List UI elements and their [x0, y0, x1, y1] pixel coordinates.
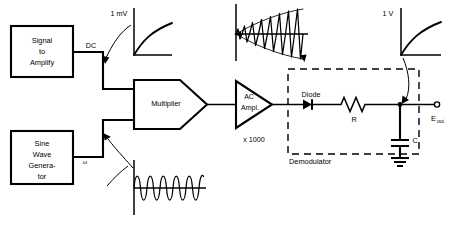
wire-sine-to-multiplier — [73, 120, 134, 157]
sine-waveform-annotation-arrow — [107, 166, 128, 186]
sine-waveform-annotation-arrow-shaft — [108, 139, 133, 168]
sine-waveform-arrowhead — [103, 133, 111, 141]
diode-triangle — [303, 100, 312, 110]
input-amplitude-label: 1 mV — [111, 9, 128, 18]
signal-to-amplify-label-line3: Amplify — [30, 58, 55, 67]
modulated-am-waveform — [234, 4, 308, 62]
resistor-component[interactable]: R — [337, 98, 370, 124]
signal-to-amplify-label-line2: to — [39, 47, 45, 56]
sine-wave-generator-label-line3: Genera- — [28, 161, 56, 170]
sine-wave-generator-label-line4: tor — [38, 172, 47, 181]
sine-wave-generator-label-line1: Sine — [35, 139, 50, 148]
output-waveform-annotation-arrow — [403, 58, 409, 99]
output-terminal-label: E — [431, 114, 436, 123]
dc-signal-label: DC — [86, 41, 96, 50]
output-waveform-arrowhead — [402, 95, 410, 104]
resistor-label: R — [351, 115, 356, 124]
capacitor-component[interactable]: C — [391, 105, 418, 167]
input-waveform-annotation-arrow — [106, 25, 131, 58]
diode-label: Diode — [302, 90, 321, 99]
sine-wave-generator-block[interactable]: Sine Wave Genera- tor — [11, 131, 73, 184]
circuit-diagram: Signal to Amplify Sine Wave Genera- tor … — [0, 0, 460, 228]
output-terminal-subscript: out — [437, 118, 445, 124]
input-waveform-trace — [134, 23, 172, 55]
diode-component[interactable]: Diode — [302, 90, 337, 110]
demodulator-label: Demodulator — [289, 157, 332, 166]
diagram-canvas: Signal to Amplify Sine Wave Genera- tor … — [0, 0, 460, 228]
output-dc-ramp-waveform: 1 V — [383, 8, 441, 104]
sine-wave-generator-label-line2: Wave — [33, 150, 52, 159]
ac-amplifier-block[interactable]: AC Ampl. x 1000 — [236, 81, 272, 144]
output-amplitude-label: 1 V — [383, 9, 394, 18]
signal-to-amplify-label-line1: Signal — [32, 36, 53, 45]
input-dc-ramp-waveform: 1 mV — [102, 8, 172, 64]
output-waveform-trace — [401, 22, 441, 55]
ac-amplifier-gain-label: x 1000 — [243, 135, 265, 144]
ground-symbol — [391, 158, 409, 166]
ac-amplifier-label-line2: Ampl. — [241, 104, 259, 112]
capacitor-label: C — [412, 136, 417, 145]
am-waveform-origin-arrowhead — [234, 31, 241, 37]
omega-frequency-label: ω — [83, 159, 88, 165]
signal-to-amplify-block[interactable]: Signal to Amplify — [11, 26, 73, 77]
reference-sine-waveform — [103, 133, 206, 215]
multiplier-block[interactable]: Multiplier — [134, 80, 207, 129]
resistor-zigzag — [337, 98, 370, 112]
ac-amplifier-label-line1: AC — [244, 93, 254, 100]
multiplier-label: Multiplier — [151, 99, 181, 108]
output-terminal-circle — [434, 102, 439, 107]
